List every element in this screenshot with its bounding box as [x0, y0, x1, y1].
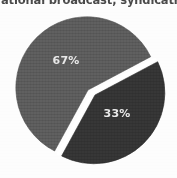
pie-label-67: 67%	[53, 54, 80, 67]
pie-label-33: 33%	[104, 107, 131, 120]
pie-chart-svg: 67% 33%	[0, 0, 177, 178]
figure-caption-strip: ational broadcast, syndication: 33 shar	[0, 0, 177, 9]
figure-caption-text: ational broadcast, syndication: 33 shar	[1, 0, 177, 7]
chart-area: 67% 33%	[0, 0, 177, 178]
pie-chart-figure: ational broadcast, syndication: 33 shar …	[0, 0, 177, 178]
